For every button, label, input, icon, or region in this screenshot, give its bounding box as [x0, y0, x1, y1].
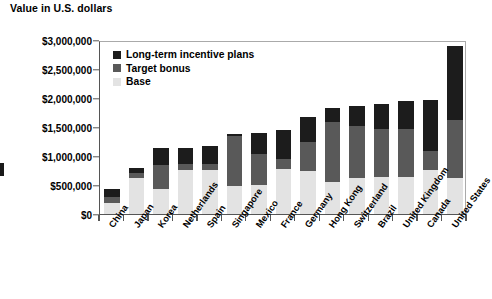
bar-segment-bonus — [300, 142, 316, 171]
legend-item: Long-term incentive plans — [113, 49, 254, 60]
y-axis-tick-label: $3,000,000 — [6, 36, 92, 47]
bar-segment-ltip — [276, 130, 292, 159]
legend-label: Target bonus — [126, 63, 190, 74]
bar-segment-ltip — [300, 117, 316, 142]
bar-segment-ltip — [202, 146, 218, 165]
bar-segment-ltip — [447, 46, 463, 120]
bar-segment-ltip — [325, 108, 341, 122]
legend-swatch-bonus — [113, 64, 121, 72]
bar-stack — [398, 101, 414, 214]
y-axis-tick-label: $2,500,000 — [6, 65, 92, 76]
bar-segment-base — [276, 169, 292, 214]
bar-segment-ltip — [251, 133, 267, 154]
bar-segment-ltip — [153, 148, 169, 164]
bar-segment-ltip — [398, 101, 414, 129]
y-axis-tick-label: $0 — [6, 210, 92, 221]
bar-stack — [178, 148, 194, 214]
bar-segment-ltip — [374, 104, 390, 129]
bar-segment-bonus — [276, 159, 292, 169]
legend-swatch-ltip — [113, 51, 121, 59]
bar-segment-ltip — [104, 189, 120, 198]
bar-segment-bonus — [227, 136, 243, 186]
bar-segment-bonus — [153, 165, 169, 189]
legend-label: Long-term incentive plans — [126, 49, 254, 60]
y-axis-tick-label: $2,000,000 — [6, 94, 92, 105]
bar-segment-ltip — [178, 148, 194, 163]
bar-segment-ltip — [423, 100, 439, 152]
bar-stack — [447, 46, 463, 214]
legend-item: Base — [113, 76, 254, 87]
bar-stack — [227, 134, 243, 214]
legend-item: Target bonus — [113, 63, 254, 74]
legend-label: Base — [126, 76, 151, 87]
chart-legend: Long-term incentive plansTarget bonusBas… — [113, 49, 254, 90]
bar-stack — [153, 148, 169, 214]
y-axis-tick-label: $1,500,000 — [6, 123, 92, 134]
bar-segment-ltip — [349, 106, 365, 126]
x-axis-tick-mark — [98, 215, 99, 221]
y-axis-tick-label: $500,000 — [6, 181, 92, 192]
bar-segment-bonus — [325, 122, 341, 181]
bar-segment-bonus — [349, 126, 365, 178]
bar-stack — [129, 168, 145, 214]
bar-segment-bonus — [374, 129, 390, 177]
page-edge-artifact — [0, 163, 4, 176]
bar-segment-bonus — [251, 154, 267, 185]
bar-segment-bonus — [423, 151, 439, 170]
y-axis-title: Value in U.S. dollars — [10, 2, 112, 14]
y-axis-tick-label: $1,000,000 — [6, 152, 92, 163]
bar-segment-bonus — [398, 129, 414, 177]
legend-swatch-base — [113, 78, 121, 86]
bar-stack — [300, 117, 316, 214]
